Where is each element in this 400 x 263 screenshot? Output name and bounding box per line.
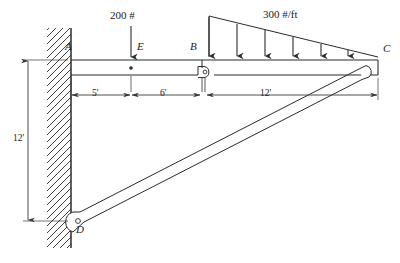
distributed-load-value: 300	[263, 8, 282, 20]
node-label-a: A	[65, 40, 72, 52]
dimension-label-a-d: 12'	[13, 133, 24, 143]
horizontal-beam	[71, 60, 378, 75]
distributed-load-unit-denominator: ft	[291, 8, 298, 20]
distributed-load-label: 300 #/ft	[263, 8, 298, 20]
node-label-c: C	[383, 42, 390, 54]
dimension-label-a-e: 5'	[92, 88, 98, 98]
horizontal-dimension-group	[71, 78, 378, 100]
diagonal-strut	[80, 66, 371, 222]
distributed-load-arrows	[209, 17, 348, 56]
point-load-label: 200 #	[110, 9, 135, 21]
dimension-label-e-b: 6'	[160, 88, 166, 98]
wall-support	[47, 28, 71, 248]
node-label-e: E	[137, 40, 144, 52]
internal-hinge-b	[198, 60, 209, 92]
distributed-load-triangle	[209, 16, 378, 57]
node-label-d: D	[76, 223, 84, 235]
point-load-arrow-e	[129, 26, 133, 92]
structural-diagram	[0, 0, 400, 263]
node-label-b: B	[190, 40, 197, 52]
dimension-label-b-c: 12'	[260, 88, 271, 98]
